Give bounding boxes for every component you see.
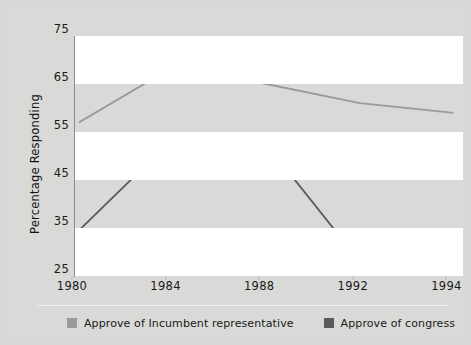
chart-root: 756555453525 Percentage Responding 19801… [0,0,471,345]
x-axis-tick-label: 1994 [431,279,461,293]
y-axis-tick-label: 75 [54,22,69,36]
x-axis-tick-label: 1984 [150,279,180,293]
legend-item[interactable]: Approve of congress [324,317,456,330]
y-axis-tick-label: 35 [54,214,69,228]
legend-label: Approve of Incumbent representative [84,317,294,330]
legend-label: Approve of congress [341,317,456,330]
y-axis-tick-label: 45 [54,166,69,180]
legend-divider [37,305,449,306]
y-axis-title: Percentage Responding [28,64,42,264]
background-band [75,36,463,84]
x-axis-tick-label: 1988 [244,279,274,293]
legend-swatch-icon [67,318,77,328]
y-axis-tick-label: 25 [54,262,69,276]
y-axis-tick-label: 55 [54,118,69,132]
legend-item[interactable]: Approve of Incumbent representative [67,317,294,330]
chart-legend: Approve of Incumbent representativeAppro… [67,316,471,330]
chart-frame: 756555453525 Percentage Responding 19801… [7,7,464,338]
y-axis-tick-label: 65 [54,70,69,84]
legend-swatch-icon [324,318,334,328]
x-axis-tick-label: 1992 [338,279,368,293]
plot-area [75,36,463,276]
x-axis-tick-label: 1980 [57,279,87,293]
background-band [75,132,463,180]
background-band [75,228,463,276]
